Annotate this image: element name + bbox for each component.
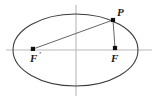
point-p-dot <box>111 18 115 22</box>
segment-p-to-right-focus <box>113 20 115 48</box>
ellipse-figure-svg: F ′ F P <box>0 0 160 101</box>
left-focus-label: F <box>29 52 38 64</box>
segment-left-focus-to-p <box>33 20 113 49</box>
left-focus-prime-icon: ′ <box>39 51 41 60</box>
right-focus-label: F <box>110 52 119 64</box>
right-focus-dot <box>113 46 117 50</box>
point-p-label: P <box>117 6 124 18</box>
left-focus-dot <box>31 47 35 51</box>
ellipse-diagram: F ′ F P <box>0 0 160 101</box>
